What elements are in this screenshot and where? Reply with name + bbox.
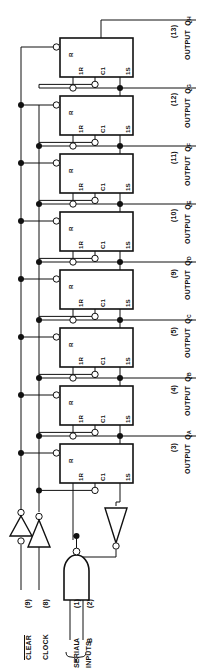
- crossover-qe: [70, 201, 76, 207]
- output-label-qb: OUTPUT QB: [184, 372, 192, 416]
- flipflop-f-box: [60, 154, 133, 193]
- ff-c-1s-label: 1S: [124, 357, 131, 365]
- crossover-qc: [70, 317, 76, 323]
- output-pin-4: (4): [170, 385, 177, 394]
- crossover-qf: [70, 143, 76, 149]
- ff-d-1s-label: 1S: [124, 299, 131, 307]
- feedback-inverter-body: [105, 508, 127, 543]
- crossover-qb: [70, 375, 76, 381]
- ff-f-1s-label: 1S: [124, 183, 131, 191]
- junction-qc: [117, 317, 123, 323]
- junction-qd: [117, 259, 123, 265]
- ff-a-c1-label: C1: [99, 473, 106, 481]
- serial-a-pin-label: (1): [73, 599, 80, 608]
- flipflop-d-box: [60, 270, 133, 309]
- ff-d-c1-label: C1: [99, 299, 106, 307]
- clock-pin-label: (8): [42, 599, 49, 608]
- ff-f-c1-label: C1: [99, 183, 106, 191]
- junction-clear-e: [18, 218, 24, 224]
- ff-f-r-label: R: [67, 169, 74, 173]
- ff-g-1r-label: 1R: [77, 125, 84, 133]
- ff-a-r-label: R: [67, 459, 74, 463]
- ff-c-1r-label: 1R: [77, 357, 84, 365]
- ff-e-1r-label: 1R: [77, 241, 84, 249]
- ff-e-r-label: R: [67, 227, 74, 231]
- junction-qg: [117, 85, 123, 91]
- output-pin-3: (3): [170, 443, 177, 452]
- ff-c-c1-label: C1: [99, 357, 106, 365]
- clear-pin-label: (9): [24, 599, 31, 608]
- crossover-qa: [70, 433, 76, 439]
- clock-label: CLOCK: [42, 634, 49, 660]
- output-pin-10: (10): [170, 209, 177, 222]
- serial-b-pin-label: (2): [86, 599, 93, 608]
- flipflop-c-box: [60, 328, 133, 367]
- crossover-qg: [70, 85, 76, 91]
- ff-b-1s-label: 1S: [124, 415, 131, 423]
- junction-clear-a: [18, 450, 24, 456]
- junction-clock-a: [36, 487, 42, 493]
- output-label-qa: OUTPUT QA: [184, 430, 192, 474]
- output-pin-5: (5): [170, 327, 177, 336]
- junction-qa: [117, 433, 123, 439]
- serial-inputs-group-label-2: INPUTS: [85, 641, 92, 668]
- ff-e-c1-label: C1: [99, 241, 106, 249]
- output-label-qd: OUTPUT QD: [184, 256, 192, 300]
- output-label-qc: OUTPUT QC: [184, 314, 192, 358]
- serial-nand-body: [64, 555, 89, 600]
- ff-g-c1-label: C1: [99, 125, 106, 133]
- junction-clear-d: [18, 276, 24, 282]
- ff-h-1r-label: 1R: [77, 67, 84, 75]
- ff-e-1s-label: 1S: [124, 241, 131, 249]
- flipflop-b-box: [60, 386, 133, 425]
- serial-inputs-group-label-1: SERIAL: [73, 641, 80, 668]
- clear-inverter-body: [10, 516, 32, 536]
- flipflop-h-box: [60, 38, 133, 77]
- junction-clear-f: [18, 160, 24, 166]
- serial-nand-out-bubble: [73, 548, 80, 555]
- junction-qe: [117, 201, 123, 207]
- junction-clear-g: [18, 102, 24, 108]
- crossover-qd: [70, 259, 76, 265]
- junction-qf: [117, 143, 123, 149]
- output-label-qh: OUTPUT QH: [184, 16, 192, 60]
- ff-h-r-label: R: [67, 53, 74, 57]
- flipflop-a-box: [60, 444, 133, 483]
- output-pin-13: (13): [170, 25, 177, 38]
- ff-b-c1-label: C1: [99, 415, 106, 423]
- feedback-inverter-out-bubble: [113, 543, 119, 549]
- ff-a-1r-label: 1R: [77, 473, 84, 481]
- junction-clear-b: [18, 392, 24, 398]
- flipflop-e-box: [60, 212, 133, 251]
- ff-f-1r-label: 1R: [77, 183, 84, 191]
- junction-clear-c: [18, 334, 24, 340]
- ff-d-r-label: R: [67, 285, 74, 289]
- flipflop-g-box: [60, 96, 133, 135]
- clear-inverter-in-bubble: [18, 538, 24, 544]
- ff-h-1s-label: 1S: [124, 67, 131, 75]
- output-pin-12: (12): [170, 93, 177, 106]
- output-label-qg: OUTPUT QG: [184, 84, 192, 128]
- ff-b-1r-label: 1R: [77, 415, 84, 423]
- output-label-qf: OUTPUT QF: [184, 143, 192, 186]
- ff-a-1s-label: 1S: [124, 473, 131, 481]
- ff-d-1r-label: 1R: [77, 299, 84, 307]
- clear-label: CLEAR: [24, 635, 33, 660]
- ff-g-1s-label: 1S: [124, 125, 131, 133]
- junction-qb: [117, 375, 123, 381]
- output-pin-11: (11): [170, 151, 177, 164]
- ff-g-r-label: R: [67, 111, 74, 115]
- logic-diagram-canvas: (13) OUTPUT QH (12) OUTPUT QG (11) OUTPU…: [0, 0, 201, 672]
- ff-b-r-label: R: [67, 401, 74, 405]
- ff-h-c1-label: C1: [99, 67, 106, 75]
- output-label-qe: OUTPUT QE: [184, 201, 192, 244]
- ff-c-r-label: R: [67, 343, 74, 347]
- output-pin-9: (9): [170, 269, 177, 278]
